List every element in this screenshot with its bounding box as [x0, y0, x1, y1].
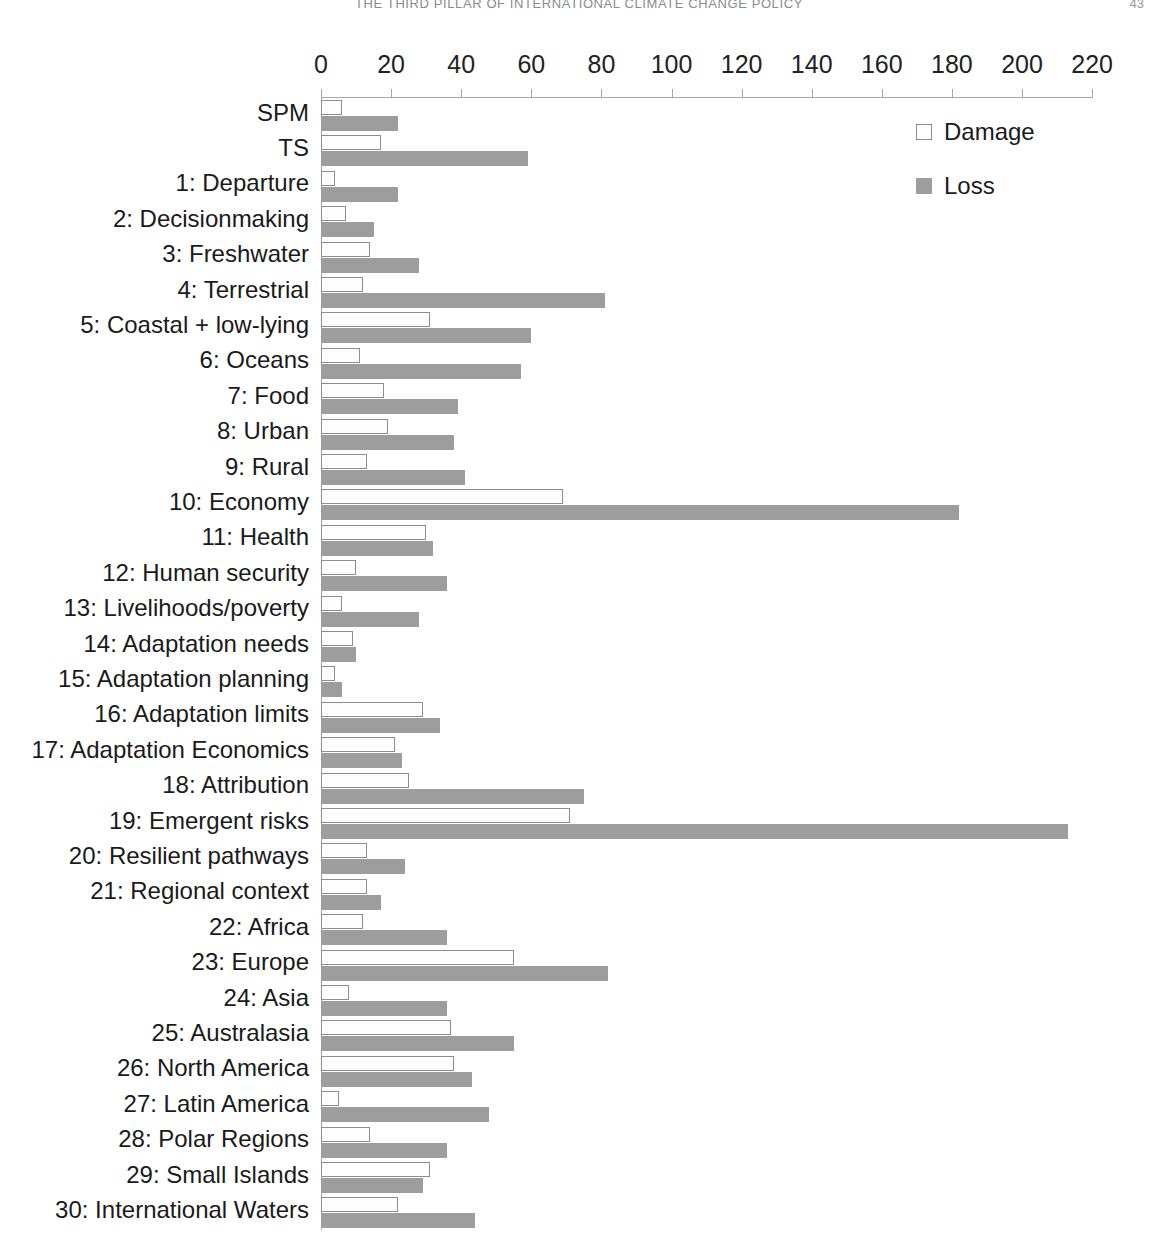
- bar-damage: [321, 808, 570, 823]
- x-axis-tick-label: 160: [861, 50, 903, 79]
- category-label: 25: Australasia: [0, 1019, 309, 1047]
- bar-damage: [321, 171, 335, 186]
- bar-damage: [321, 879, 367, 894]
- bar-loss: [321, 470, 465, 485]
- chart-row: 9: Rural: [0, 451, 1158, 486]
- chart-row: 5: Coastal + low-lying: [0, 309, 1158, 344]
- chart-row: 21: Regional context: [0, 876, 1158, 911]
- x-axis-tick-label: 40: [447, 50, 475, 79]
- category-label: 12: Human security: [0, 559, 309, 587]
- bar-loss: [321, 1178, 423, 1193]
- category-label: 1: Departure: [0, 169, 309, 197]
- bar-damage: [321, 419, 388, 434]
- bar-loss: [321, 1213, 475, 1228]
- chart-row: 12: Human security: [0, 557, 1158, 592]
- bar-damage: [321, 950, 514, 965]
- bar-loss: [321, 895, 381, 910]
- category-label: 18: Attribution: [0, 771, 309, 799]
- bar-loss: [321, 930, 447, 945]
- chart-row: 24: Asia: [0, 982, 1158, 1017]
- bar-damage: [321, 596, 342, 611]
- chart-row: 14: Adaptation needs: [0, 628, 1158, 663]
- legend-label: Loss: [944, 172, 995, 200]
- chart-row: 26: North America: [0, 1053, 1158, 1088]
- bar-loss: [321, 541, 433, 556]
- category-label: 29: Small Islands: [0, 1161, 309, 1189]
- category-label: 8: Urban: [0, 417, 309, 445]
- chart-row: 17: Adaptation Economics: [0, 734, 1158, 769]
- x-axis-tick-label: 80: [587, 50, 615, 79]
- bar-damage: [321, 312, 430, 327]
- bar-damage: [321, 206, 346, 221]
- bar-loss: [321, 682, 342, 697]
- bar-damage: [321, 277, 363, 292]
- bar-damage: [321, 1127, 370, 1142]
- x-axis-tick-label: 120: [721, 50, 763, 79]
- bar-damage: [321, 985, 349, 1000]
- chart-legend: DamageLoss: [916, 118, 1035, 226]
- bar-damage: [321, 348, 360, 363]
- bar-loss: [321, 576, 447, 591]
- category-label: 7: Food: [0, 382, 309, 410]
- bar-damage: [321, 1020, 451, 1035]
- bar-loss: [321, 187, 398, 202]
- x-axis-tick-label: 200: [1001, 50, 1043, 79]
- chart-row: 28: Polar Regions: [0, 1124, 1158, 1159]
- category-label: 23: Europe: [0, 948, 309, 976]
- bar-loss: [321, 1143, 447, 1158]
- chart-row: 6: Oceans: [0, 345, 1158, 380]
- bar-damage: [321, 135, 381, 150]
- filled-square-swatch-icon: [916, 178, 932, 194]
- bar-damage: [321, 914, 363, 929]
- chart-row: 19: Emergent risks: [0, 805, 1158, 840]
- category-label: 14: Adaptation needs: [0, 630, 309, 658]
- bar-loss: [321, 1107, 489, 1122]
- bar-damage: [321, 737, 395, 752]
- bar-damage: [321, 1162, 430, 1177]
- bar-damage: [321, 631, 353, 646]
- bar-damage: [321, 1091, 339, 1106]
- category-label: 24: Asia: [0, 984, 309, 1012]
- bar-loss: [321, 789, 584, 804]
- category-label: 17: Adaptation Economics: [0, 736, 309, 764]
- chart-row: 8: Urban: [0, 416, 1158, 451]
- category-label: 21: Regional context: [0, 877, 309, 905]
- category-label: 27: Latin America: [0, 1090, 309, 1118]
- x-axis-tick-label: 140: [791, 50, 833, 79]
- category-label: 19: Emergent risks: [0, 807, 309, 835]
- x-axis-tick-label: 220: [1071, 50, 1113, 79]
- bar-damage: [321, 560, 356, 575]
- bar-loss: [321, 293, 605, 308]
- legend-label: Damage: [944, 118, 1035, 146]
- category-label: 20: Resilient pathways: [0, 842, 309, 870]
- bar-loss: [321, 328, 531, 343]
- chart-row: 18: Attribution: [0, 770, 1158, 805]
- category-label: 6: Oceans: [0, 346, 309, 374]
- bar-loss: [321, 753, 402, 768]
- chart-row: 3: Freshwater: [0, 239, 1158, 274]
- bar-loss: [321, 718, 440, 733]
- open-square-swatch-icon: [916, 124, 932, 140]
- chart-row: 15: Adaptation planning: [0, 663, 1158, 698]
- category-label: 11: Health: [0, 523, 309, 551]
- bar-loss: [321, 1072, 472, 1087]
- chart-row: 22: Africa: [0, 911, 1158, 946]
- bar-loss: [321, 1036, 514, 1051]
- category-label: 15: Adaptation planning: [0, 665, 309, 693]
- category-label: SPM: [0, 99, 309, 127]
- bar-loss: [321, 824, 1068, 839]
- x-axis-tick-label: 0: [314, 50, 328, 79]
- category-label: 26: North America: [0, 1054, 309, 1082]
- bar-damage: [321, 843, 367, 858]
- category-label: 13: Livelihoods/poverty: [0, 594, 309, 622]
- bar-loss: [321, 612, 419, 627]
- horizontal-bar-chart: 020406080100120140160180200220 SPMTS1: D…: [0, 0, 1158, 1255]
- chart-row: 13: Livelihoods/poverty: [0, 593, 1158, 628]
- category-label: 9: Rural: [0, 453, 309, 481]
- bar-damage: [321, 489, 563, 504]
- bar-damage: [321, 525, 426, 540]
- chart-row: 20: Resilient pathways: [0, 840, 1158, 875]
- bar-loss: [321, 399, 458, 414]
- bar-loss: [321, 1001, 447, 1016]
- chart-row: 23: Europe: [0, 947, 1158, 982]
